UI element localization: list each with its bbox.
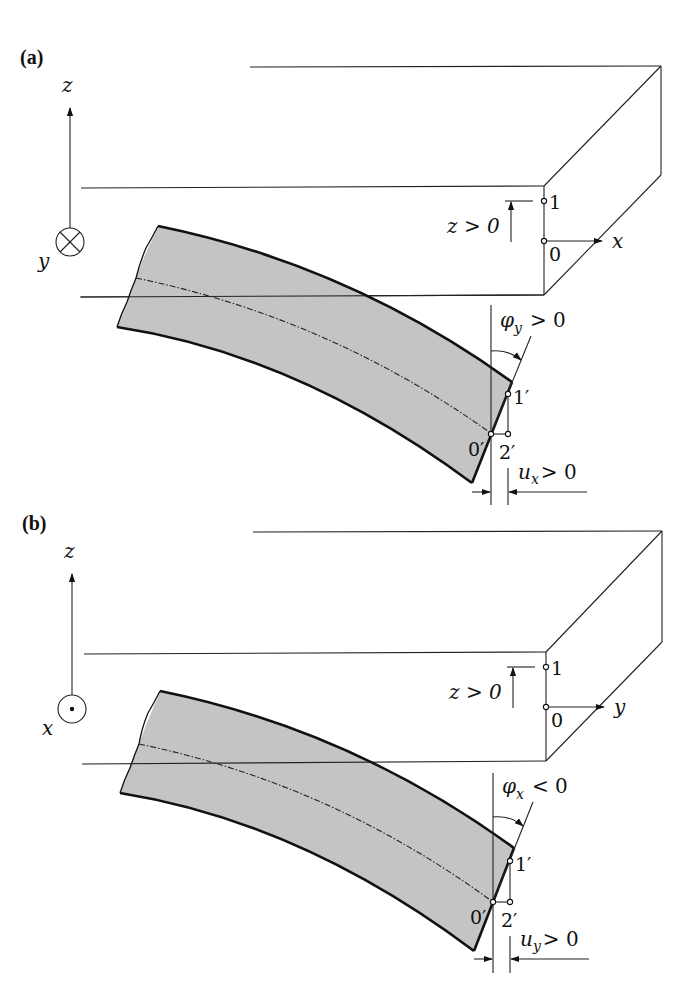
z-axis-label: z (61, 73, 73, 97)
x-axis-label: x (42, 716, 53, 740)
panel-b-label: (b) (22, 512, 46, 535)
point-1-label: 1 (549, 191, 561, 213)
point-1-marker (543, 664, 548, 669)
rotation-arc-arrow-icon (493, 817, 523, 826)
point-0p-marker (490, 899, 495, 904)
point-0p-marker (488, 431, 493, 436)
reference-points-a: x 1 0 z > 0 (446, 191, 623, 265)
point-0-label: 0 (551, 709, 563, 731)
displacement-subscript: x (531, 471, 539, 487)
reference-points-b: y 1 0 z > 0 (448, 657, 626, 731)
axis-triad-b: z x (42, 539, 86, 740)
point-1-label: 1 (551, 657, 563, 679)
displacement-symbol: u (520, 927, 533, 951)
rotation-relation: > 0 (530, 308, 566, 332)
panel-b: (b) z x (22, 512, 662, 973)
rotation-symbol: φ (500, 308, 514, 332)
point-1p-label: 1′ (515, 853, 531, 875)
rotation-subscript: x (516, 786, 524, 802)
y-axis-label: y (613, 695, 626, 719)
point-0p-label: 0′ (468, 438, 484, 460)
point-0p-label: 0′ (470, 906, 486, 928)
rotation-arc-arrow-icon (491, 351, 521, 360)
rotation-symbol: φ (502, 774, 516, 798)
point-0-marker (541, 238, 546, 243)
axis-triad-a: z y (37, 73, 84, 273)
rotation-subscript: y (513, 320, 523, 336)
svg-text:uy> 0: uy> 0 (520, 927, 579, 954)
point-1-marker (541, 198, 546, 203)
point-0-marker (543, 704, 548, 709)
displacement-relation: > 0 (541, 460, 577, 484)
panel-a: (a) z y (20, 46, 661, 505)
panel-a-label: (a) (20, 46, 43, 69)
point-1p-label: 1′ (513, 386, 529, 408)
rotation-relation: < 0 (532, 774, 568, 798)
point-2p-marker (507, 899, 512, 904)
svg-text:φy> 0: φy> 0 (500, 308, 566, 336)
point-1p-marker (507, 858, 512, 863)
x-axis-label: x (612, 229, 623, 253)
beam-deformation-diagram: (a) z y (0, 0, 694, 1006)
point-1p-marker (505, 391, 510, 396)
displacement-symbol: u (518, 460, 531, 484)
z-positive-label: z > 0 (448, 680, 502, 704)
point-2p-label: 2′ (499, 441, 515, 463)
z-axis-label: z (63, 539, 75, 563)
z-positive-label: z > 0 (446, 214, 500, 238)
y-axis-label: y (37, 249, 50, 273)
displacement-subscript: y (532, 938, 542, 954)
out-of-page-dot-icon (58, 695, 86, 723)
into-page-cross-icon (56, 228, 84, 256)
point-0-label: 0 (549, 243, 561, 265)
svg-text:ux> 0: ux> 0 (518, 460, 577, 487)
point-2p-label: 2′ (501, 909, 517, 931)
point-2p-marker (505, 431, 510, 436)
svg-text:φx< 0: φx< 0 (502, 774, 568, 802)
displacement-relation: > 0 (543, 927, 579, 951)
